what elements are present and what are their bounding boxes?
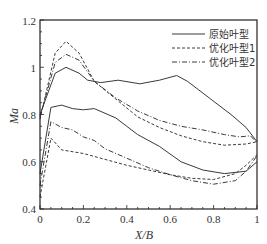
curve-dashdot-pressure	[40, 122, 257, 186]
legend: 原始叶型 优化叶型1 优化叶型2	[172, 28, 255, 68]
y-tick-label: 0.8	[22, 109, 36, 121]
x-tick-label: 1	[254, 213, 260, 225]
legend-label: 优化叶型1	[209, 42, 255, 54]
y-tick-label: 0.6	[22, 156, 36, 168]
y-tick-label: 1.2	[22, 15, 36, 27]
x-tick-label: 0.6	[163, 213, 177, 225]
y-tick-label: 0.4	[22, 203, 36, 215]
curve-solid-suction	[40, 67, 257, 141]
x-tick-label: 0.4	[120, 213, 134, 225]
x-axis-title: X/B	[134, 228, 154, 242]
x-tick-label: 0	[37, 213, 43, 225]
legend-label: 原始叶型	[209, 28, 249, 40]
x-tick-label: 0.8	[207, 213, 221, 225]
y-tick-label: 1	[31, 62, 37, 74]
x-tick-label: 0.2	[77, 213, 91, 225]
y-axis-title: Ma	[7, 108, 21, 125]
y-tick-labels: 0.4 0.6 0.8 1 1.2	[22, 15, 36, 215]
legend-label: 优化叶型2	[209, 56, 255, 68]
x-tick-labels: 0 0.2 0.4 0.6 0.8 1	[37, 213, 260, 225]
mach-distribution-chart: 0.4 0.6 0.8 1 1.2 0 0.2 0.4 0.6 0.8 1 X/…	[0, 0, 267, 244]
